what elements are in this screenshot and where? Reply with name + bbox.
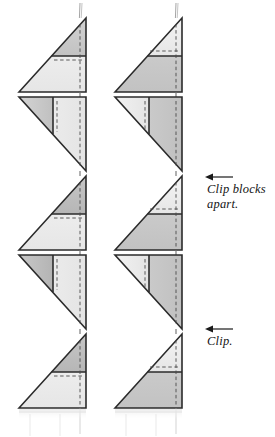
right-block-2[interactable] — [115, 176, 182, 250]
annotation-clip-blocks-apart: Clip blocks apart. — [207, 182, 266, 213]
annotation-clip: Clip. — [207, 334, 233, 349]
left-block-4[interactable] — [19, 334, 86, 408]
left-column[interactable] — [19, 3, 86, 436]
right-column[interactable] — [115, 3, 182, 436]
right-block-0[interactable] — [115, 18, 182, 92]
right-block-1[interactable] — [115, 97, 182, 171]
quilt-block-chain-diagram — [0, 0, 275, 437]
right-block-3[interactable] — [115, 255, 182, 329]
figure-stage: Clip blocks apart. Clip. — [0, 0, 275, 437]
left-thread-top — [79, 3, 82, 18]
annotation-arrow-clip-blocks-apart — [205, 174, 233, 181]
right-thread-top — [175, 3, 178, 18]
left-block-1[interactable] — [19, 97, 86, 171]
left-block-2[interactable] — [19, 176, 86, 250]
left-thread-bottom — [19, 408, 86, 436]
right-block-4[interactable] — [115, 334, 182, 408]
left-block-0[interactable] — [19, 18, 86, 92]
annotation-arrow-clip — [205, 326, 233, 333]
right-thread-bottom — [115, 408, 182, 436]
left-block-3[interactable] — [19, 255, 86, 329]
